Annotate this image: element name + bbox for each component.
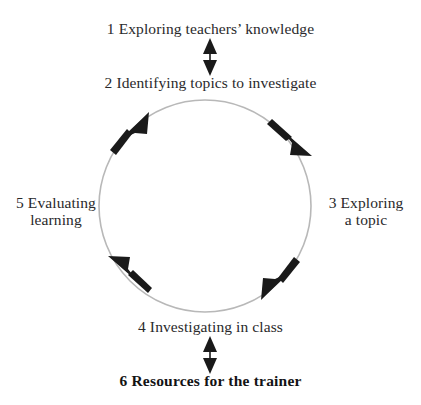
circle-arrow-bottom-right [261, 257, 300, 300]
step-label-3: 3 Exploring a topic [316, 194, 416, 229]
step-label-6: 6 Resources for the trainer [0, 372, 421, 389]
step-label-4: 4 Investigating in class [0, 318, 421, 335]
step-label-2: 2 Identifying topics to investigate [0, 74, 421, 91]
circle-arrow-top-left [110, 112, 149, 155]
cycle-diagram: 1 Exploring teachers’ knowledge 2 Identi… [0, 0, 421, 405]
step-label-1: 1 Exploring teachers’ knowledge [0, 20, 421, 37]
circle-arrow-bottom-left [108, 256, 152, 293]
connector-4-6 [203, 336, 217, 374]
circle-arrow-top-right [267, 119, 312, 156]
connector-1-2 [203, 38, 217, 76]
step-label-5: 5 Evaluating learning [6, 194, 106, 229]
